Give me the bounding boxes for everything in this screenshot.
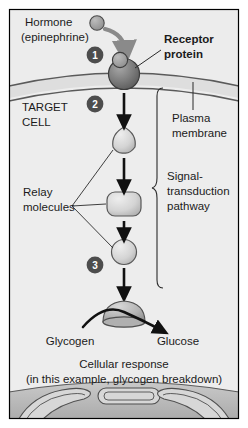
plasma-membrane-label-line2: membrane [172, 127, 227, 139]
signal-transduction-figure: 1 2 3 Hormone (epinephrine) Receptor pro… [0, 0, 248, 428]
hormone-label-line2: (epinephrine) [21, 31, 89, 43]
step-badge-2-number: 2 [92, 99, 98, 110]
diagram-canvas: 1 2 3 Hormone (epinephrine) Receptor pro… [0, 0, 248, 428]
relay-molecule-3 [112, 240, 137, 265]
pathway-label-line2: transduction [167, 185, 230, 197]
hormone-label-line1: Hormone [25, 16, 72, 28]
relay-molecules-label-line1: Relay [23, 186, 53, 198]
pathway-label-line1: Signal- [167, 170, 203, 182]
muscle-fiber-center [98, 388, 160, 404]
step-badge-2: 2 [87, 96, 104, 113]
step-badge-3-number: 3 [92, 260, 98, 271]
cellular-response-label-line2: (in this example, glycogen breakdown) [26, 373, 222, 385]
relay-molecules-label-line2: molecules [23, 201, 75, 213]
target-cell-label-line1: TARGET [22, 101, 68, 113]
relay-molecule-2 [107, 192, 141, 216]
figure-panel: 1 2 3 Hormone (epinephrine) Receptor pro… [9, 9, 239, 424]
receptor-bound-hormone [112, 52, 127, 67]
step-badge-1: 1 [87, 47, 104, 64]
glycogen-label: Glycogen [46, 335, 95, 347]
muscle-fiber-group [9, 382, 239, 424]
cellular-response-label-line1: Cellular response [79, 358, 169, 370]
target-cell-label-line2: CELL [22, 116, 51, 128]
plasma-membrane-label-line1: Plasma [172, 112, 211, 124]
step-badge-3: 3 [87, 257, 104, 274]
glucose-label: Glucose [157, 335, 199, 347]
receptor-label-line1: Receptor [164, 33, 214, 45]
receptor-label-line2: protein [164, 48, 203, 60]
pathway-label-line3: pathway [167, 200, 210, 212]
step-badge-1-number: 1 [92, 50, 98, 61]
hormone-molecule [90, 16, 104, 30]
